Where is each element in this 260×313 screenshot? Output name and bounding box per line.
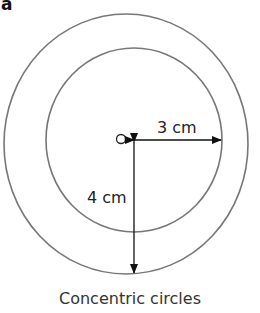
- outer-circle: [4, 14, 248, 274]
- inner-radius-label: 3 cm: [157, 118, 197, 137]
- outer-radius-label: 4 cm: [87, 188, 127, 207]
- center-point: [117, 135, 126, 144]
- concentric-circles-diagram: 3 cm 4 cm: [0, 0, 260, 313]
- caption: Concentric circles: [0, 289, 260, 308]
